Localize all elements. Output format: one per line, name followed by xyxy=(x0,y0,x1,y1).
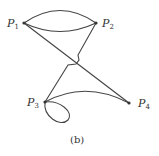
node-p3 xyxy=(43,100,46,103)
figure-caption: (b) xyxy=(70,134,84,145)
edge-p2-p3 xyxy=(45,23,96,102)
node-p1 xyxy=(22,21,25,24)
graph-diagram: P1 P2 P3 P4 (b) xyxy=(0,0,159,156)
edge-p1-p2-upper xyxy=(24,11,96,24)
label-p2: P2 xyxy=(101,17,114,31)
label-p3: P3 xyxy=(26,96,39,110)
edge-p3-loop xyxy=(45,102,70,123)
node-p4 xyxy=(127,101,130,104)
label-p4: P4 xyxy=(137,97,150,111)
edge-p1-p2-lower xyxy=(24,23,96,32)
label-p1: P1 xyxy=(6,17,19,31)
node-p2 xyxy=(94,21,97,24)
